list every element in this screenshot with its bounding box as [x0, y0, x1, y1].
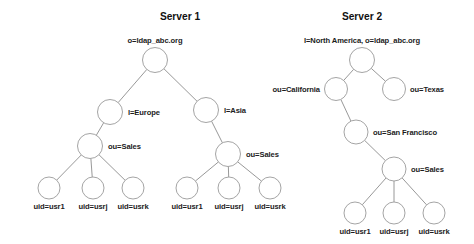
node-circle[interactable] — [38, 177, 60, 199]
panel-title-server-1: Server 1 — [160, 11, 201, 22]
ou-sales-asia-node[interactable]: ou=Sales — [216, 142, 279, 167]
node-label: uid=usrj — [215, 202, 244, 211]
tree-edge — [365, 140, 386, 160]
root-node[interactable]: o=ldap_abc.org — [128, 36, 183, 73]
uid-usrj-node[interactable]: uid=usrj — [215, 177, 244, 211]
node-label: uid=usrj — [79, 202, 108, 211]
node-label: uid=usrk — [254, 202, 286, 211]
ldap-tree-diagram: o=ldap_abc.orgl=Europel=Asiaou=Salesou=S… — [0, 0, 474, 244]
nodes-layer: o=ldap_abc.orgl=Europel=Asiaou=Salesou=S… — [33, 36, 450, 236]
tree-edge — [96, 123, 103, 135]
uid-usr1-node[interactable]: uid=usr1 — [33, 177, 65, 211]
edges-layer — [57, 68, 427, 204]
root-node[interactable]: l=North America, o=ldap_abc.org — [304, 36, 421, 73]
node-label: uid=usr1 — [171, 202, 203, 211]
node-label: ou=Sales — [411, 165, 444, 174]
tree-edge — [118, 69, 147, 102]
tree-edge — [164, 69, 197, 102]
node-label: uid=usr1 — [339, 227, 371, 236]
node-label: l=Asia — [224, 106, 247, 115]
ou-sales-node[interactable]: ou=Sales — [382, 157, 444, 181]
node-circle[interactable] — [259, 177, 281, 199]
node-circle[interactable] — [98, 100, 123, 125]
uid-usr1-node[interactable]: uid=usr1 — [339, 202, 371, 236]
tree-edge — [91, 158, 92, 177]
node-label: o=ldap_abc.org — [128, 36, 183, 45]
tree-edge — [371, 68, 385, 81]
node-label: l=North America, o=ldap_abc.org — [304, 36, 421, 45]
tree-edge — [341, 99, 351, 121]
node-circle[interactable] — [423, 202, 445, 224]
l-europe-node[interactable]: l=Europe — [98, 100, 160, 125]
node-circle[interactable] — [216, 142, 241, 167]
uid-usrj-node[interactable]: uid=usrj — [79, 177, 108, 211]
uid-usrk-node[interactable]: uid=usrk — [418, 202, 450, 236]
node-circle[interactable] — [78, 134, 103, 159]
node-circle[interactable] — [383, 78, 406, 101]
node-circle[interactable] — [82, 177, 104, 199]
node-label: uid=usrk — [418, 227, 450, 236]
panel-title-server-2: Server 2 — [342, 11, 383, 22]
node-label: ou=Texas — [410, 85, 444, 94]
node-label: l=Europe — [128, 108, 160, 117]
node-label: uid=usrj — [380, 227, 409, 236]
l-asia-node[interactable]: l=Asia — [194, 98, 247, 123]
uid-usrj-node[interactable]: uid=usrj — [380, 202, 409, 236]
node-circle[interactable] — [194, 98, 219, 123]
tree-edge — [238, 162, 262, 181]
node-label: ou=Sales — [108, 142, 141, 151]
node-circle[interactable] — [143, 48, 168, 73]
uid-usrk-node[interactable]: uid=usrk — [117, 177, 149, 211]
node-circle[interactable] — [382, 157, 406, 181]
node-circle[interactable] — [122, 177, 144, 199]
tree-edge — [344, 69, 354, 80]
ou-california-node[interactable]: ou=California — [273, 78, 348, 101]
node-circle[interactable] — [350, 48, 375, 73]
node-label: ou=Sales — [246, 150, 279, 159]
tree-edge — [362, 178, 386, 205]
ou-san-francisco-node[interactable]: ou=San Francisco — [344, 120, 437, 144]
uid-usr1-node[interactable]: uid=usr1 — [171, 177, 203, 211]
tree-edge — [195, 162, 218, 181]
node-circle[interactable] — [325, 78, 348, 101]
ou-texas-node[interactable]: ou=Texas — [383, 78, 444, 101]
tree-edge — [99, 155, 125, 181]
node-circle[interactable] — [344, 202, 366, 224]
titles-layer: Server 1Server 2 — [160, 11, 383, 22]
node-label: ou=San Francisco — [373, 128, 437, 137]
node-label: uid=usrk — [117, 202, 149, 211]
tree-edge — [402, 178, 427, 205]
node-circle[interactable] — [383, 202, 405, 224]
node-label: ou=California — [273, 85, 321, 94]
tree-canvas: o=ldap_abc.orgl=Europel=Asiaou=Salesou=S… — [0, 0, 474, 244]
tree-edge — [57, 155, 82, 180]
uid-usrk-node[interactable]: uid=usrk — [254, 177, 286, 211]
node-label: uid=usr1 — [33, 202, 65, 211]
node-circle[interactable] — [176, 177, 198, 199]
node-circle[interactable] — [218, 177, 240, 199]
tree-edge — [212, 121, 223, 143]
ou-sales-europe-node[interactable]: ou=Sales — [78, 134, 141, 159]
node-circle[interactable] — [344, 120, 368, 144]
